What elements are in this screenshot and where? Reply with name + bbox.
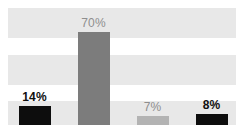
bar[interactable] [137,116,169,125]
bar-value-label: 70% [64,17,123,30]
bar[interactable] [19,106,51,125]
bar-chart-figure: 14% 70% 7% 8% [0,0,242,135]
bar-value-label: 8% [182,99,241,112]
bar-value-label: 7% [123,101,182,114]
bar[interactable] [196,114,228,125]
bar[interactable] [78,32,110,125]
bar-value-label: 14% [5,91,64,104]
plot-area: 14% 70% 7% 8% [0,0,242,135]
bar-group[interactable]: 8% [182,99,241,125]
bar-group[interactable]: 14% [5,91,64,125]
bar-group[interactable]: 70% [64,17,123,125]
bar-group[interactable]: 7% [123,101,182,125]
